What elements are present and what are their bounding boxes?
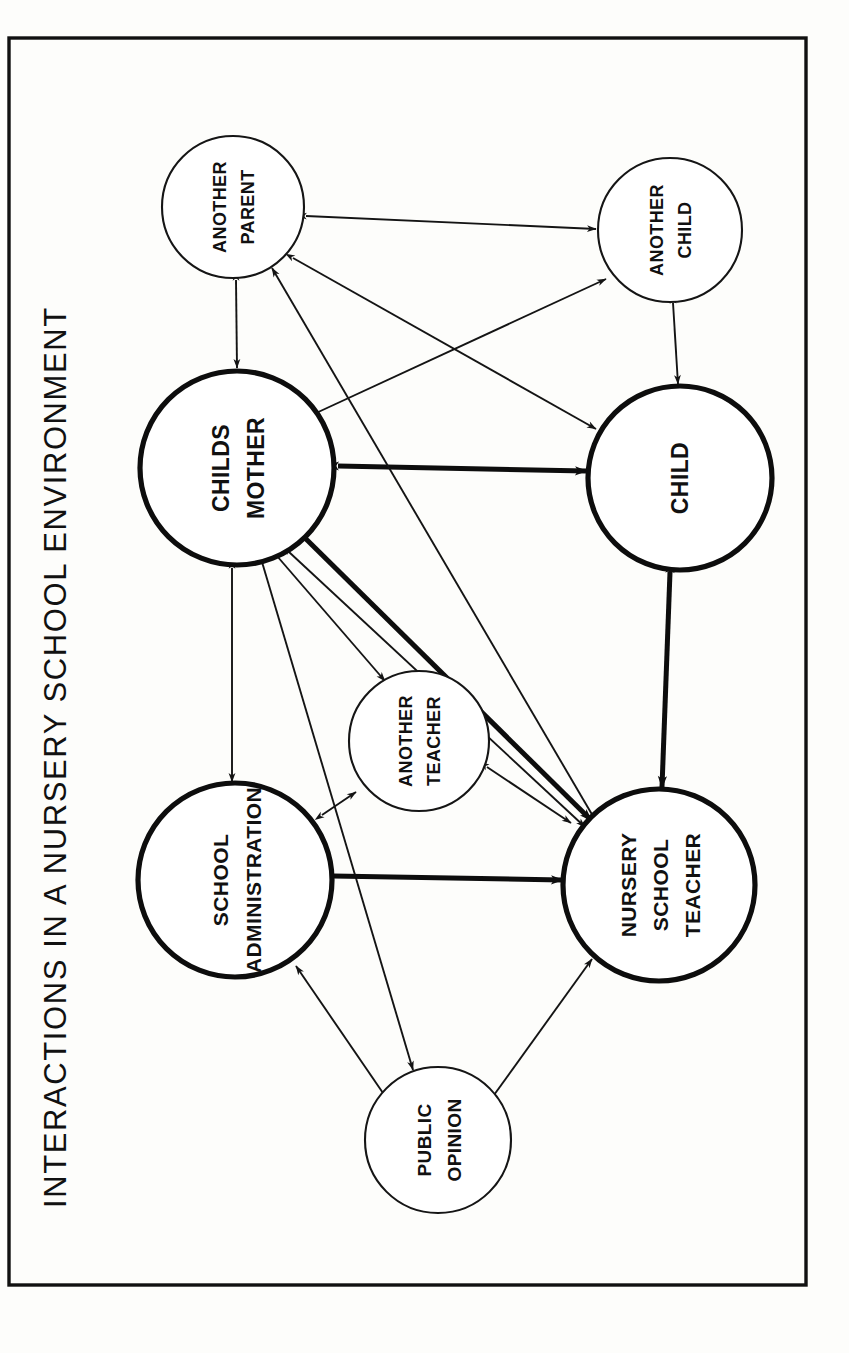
- node-another-teacher[interactable]: ANOTHER TEACHER: [349, 671, 489, 811]
- node-another-teacher-label-line-1: ANOTHER: [396, 695, 416, 787]
- edge-public-opinion-school-administration: [296, 966, 383, 1093]
- node-nursery-school-teacher[interactable]: NURSERY SCHOOL TEACHER: [563, 789, 755, 981]
- node-school-administration-circle[interactable]: [138, 783, 332, 977]
- diagram-title-group: INTERACTIONS IN A NURSERY SCHOOL ENVIRON…: [38, 306, 73, 1208]
- edge-another-parent-another-child: [306, 216, 596, 229]
- edge-another-parent-childs-mother: [236, 280, 237, 368]
- node-childs-mother-label-line-1: CHILDS: [208, 424, 234, 512]
- node-layer: ANOTHER PARENT ANOTHER CHILD CHILDS MOTH…: [138, 136, 772, 1213]
- edge-child-nursery-teacher: [662, 572, 670, 787]
- node-nursery-school-teacher-label-line-1: NURSERY: [617, 833, 640, 938]
- node-another-parent[interactable]: ANOTHER PARENT: [162, 136, 304, 278]
- node-public-opinion-label-line-2: OPINION: [444, 1098, 465, 1181]
- node-school-administration-label-line-2: ADMINISTRATION: [242, 787, 265, 973]
- node-school-administration-label-line-1: SCHOOL: [209, 834, 232, 926]
- node-public-opinion[interactable]: PUBLIC OPINION: [365, 1067, 511, 1213]
- node-another-child-label-line-2: CHILD: [675, 202, 695, 259]
- node-another-parent-circle[interactable]: [162, 136, 304, 278]
- node-public-opinion-circle[interactable]: [365, 1067, 511, 1213]
- node-nursery-school-teacher-label-line-3: TEACHER: [681, 833, 704, 937]
- node-nursery-school-teacher-label-line-2: SCHOOL: [649, 839, 672, 931]
- node-school-administration[interactable]: SCHOOL ADMINISTRATION: [138, 783, 332, 977]
- edge-childs-mother-another-teacher: [277, 556, 385, 681]
- node-another-parent-label-line-2: PARENT: [238, 169, 258, 244]
- node-another-parent-label-line-1: ANOTHER: [210, 161, 230, 253]
- node-another-teacher-circle[interactable]: [349, 671, 489, 811]
- node-another-child[interactable]: ANOTHER CHILD: [598, 158, 742, 302]
- node-public-opinion-label-line-1: PUBLIC: [414, 1103, 435, 1176]
- node-child-label-line-1: CHILD: [667, 442, 693, 514]
- node-another-teacher-label-line-2: TEACHER: [424, 696, 444, 786]
- page-title: INTERACTIONS IN A NURSERY SCHOOL ENVIRON…: [38, 306, 73, 1208]
- edge-school-administration-another-teacher: [322, 792, 356, 815]
- node-childs-mother[interactable]: CHILDS MOTHER: [140, 371, 334, 565]
- node-childs-mother-label-line-2: MOTHER: [243, 417, 269, 519]
- edge-school-administration-nursery-teacher: [333, 876, 562, 880]
- diagram-page: ANOTHER PARENT ANOTHER CHILD CHILDS MOTH…: [0, 0, 849, 1353]
- nursery-school-interaction-diagram: ANOTHER PARENT ANOTHER CHILD CHILDS MOTH…: [0, 0, 849, 1353]
- edge-public-opinion-nursery-teacher: [494, 959, 592, 1095]
- edge-childs-mother-child: [338, 466, 586, 471]
- node-another-child-label-line-1: ANOTHER: [647, 184, 667, 276]
- node-child[interactable]: CHILD: [588, 386, 772, 570]
- node-childs-mother-circle[interactable]: [140, 371, 334, 565]
- node-another-child-circle[interactable]: [598, 158, 742, 302]
- edge-childs-mother-another-child: [314, 279, 606, 414]
- edge-another-child-child: [673, 303, 678, 384]
